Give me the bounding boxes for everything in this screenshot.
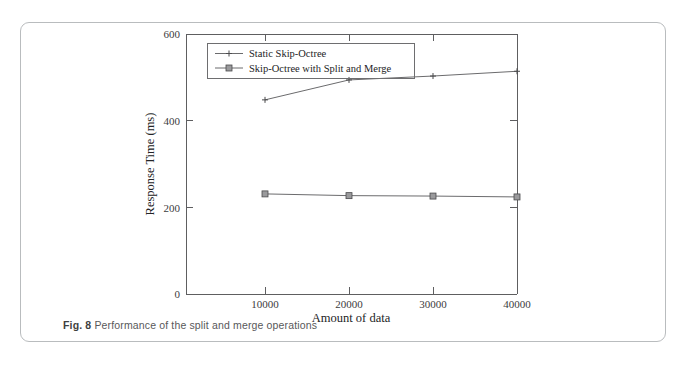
x-tick-label-40000: 40000 (503, 298, 531, 310)
chart-legend: Static Skip-Octree Skip-Octree with Spli… (207, 43, 414, 78)
y-axis-title: Response Time (ms) (143, 113, 157, 216)
legend-marker-square (226, 65, 232, 71)
data-point-marker (262, 191, 268, 197)
y-tick-label-200: 200 (164, 202, 181, 214)
legend-label-series-0: Static Skip-Octree (249, 48, 327, 59)
series-skip-octree-split-merge (262, 191, 520, 200)
x-tick-label-10000: 10000 (251, 298, 279, 310)
data-point-marker (346, 193, 352, 199)
y-tick-label-600: 600 (164, 28, 181, 40)
data-point-marker (430, 73, 436, 79)
figure-caption-text: Performance of the split and merge opera… (94, 319, 317, 331)
y-tick-label-0: 0 (175, 288, 181, 300)
figure-caption: Fig. 8 Performance of the split and merg… (63, 319, 317, 331)
x-tick-label-20000: 20000 (335, 298, 363, 310)
figure-caption-label: Fig. 8 (63, 319, 91, 331)
x-axis-title: Amount of data (312, 311, 391, 323)
response-time-line-chart: 0 200 400 600 10000 20000 30000 40000 Am… (21, 23, 667, 323)
x-tick-label-30000: 30000 (419, 298, 447, 310)
data-point-marker (262, 97, 268, 103)
data-point-marker (514, 194, 520, 200)
y-tick-label-400: 400 (164, 115, 181, 127)
legend-marker-plus (226, 51, 232, 57)
data-point-marker (430, 193, 436, 199)
figure-card: 0 200 400 600 10000 20000 30000 40000 Am… (20, 22, 666, 342)
legend-label-series-1: Skip-Octree with Split and Merge (249, 63, 391, 74)
data-point-marker (514, 68, 520, 74)
chart-region: 0 200 400 600 10000 20000 30000 40000 Am… (21, 23, 667, 323)
